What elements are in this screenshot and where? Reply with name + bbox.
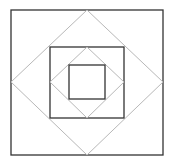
inner-diamond <box>50 47 124 118</box>
nested-squares-diagram <box>0 0 171 160</box>
middle-square <box>50 47 124 118</box>
inner-square <box>69 65 105 99</box>
outer-diamond <box>11 10 163 155</box>
outer-square <box>11 10 163 155</box>
